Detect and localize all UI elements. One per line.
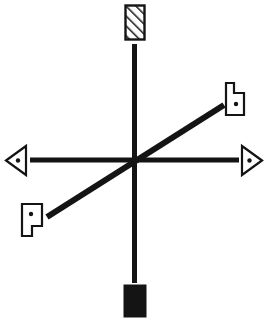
hatched-rectangle-marker — [126, 6, 145, 40]
right-triangle-dot — [247, 158, 251, 162]
upper-right-flag-dot — [234, 102, 238, 106]
left-triangle-dot — [16, 158, 20, 162]
figure-canvas — [0, 0, 267, 323]
lower-left-flag-dot — [29, 212, 33, 216]
figure-svg — [0, 0, 267, 323]
solid-rectangle-body — [124, 285, 146, 317]
hatched-rectangle-body — [126, 6, 145, 40]
solid-rectangle-marker — [124, 285, 146, 317]
